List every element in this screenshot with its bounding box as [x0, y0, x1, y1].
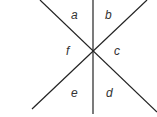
diagonal-line-descending	[40, 0, 157, 112]
angle-label-b: b	[105, 8, 112, 22]
angle-diagram: a b c d e f	[0, 0, 157, 117]
angle-label-c: c	[114, 44, 120, 58]
diagonal-line-ascending	[32, 0, 147, 109]
angle-label-e: e	[71, 86, 78, 100]
angle-label-a: a	[71, 8, 78, 22]
angle-label-d: d	[106, 86, 113, 100]
angle-label-f: f	[66, 44, 71, 58]
